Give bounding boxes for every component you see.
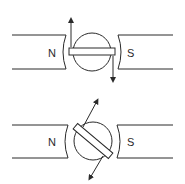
north-label: N <box>48 136 56 148</box>
south-pole <box>117 125 173 158</box>
figure-rotated: N S <box>12 101 173 178</box>
arrow-up-right-icon <box>83 101 97 127</box>
south-label: S <box>127 136 134 148</box>
south-label: S <box>127 47 134 59</box>
north-label: N <box>48 47 56 59</box>
bar-magnet <box>69 48 115 55</box>
north-pole <box>12 125 68 158</box>
north-pole <box>12 35 66 69</box>
magnet-rotor-diagram: N S N S <box>0 0 185 184</box>
figure-aligned: N S <box>12 20 173 80</box>
